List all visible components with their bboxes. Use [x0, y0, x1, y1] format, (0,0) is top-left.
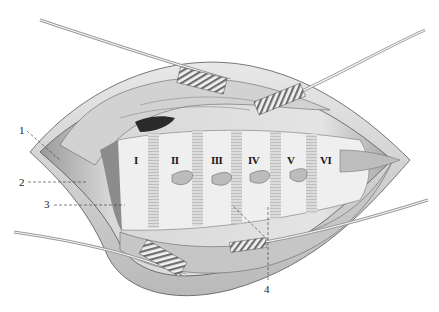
segment-label-ii: II: [171, 155, 179, 166]
segment-label-vi: VI: [320, 155, 331, 166]
callout-3: 3: [44, 199, 50, 210]
callout-4: 4: [264, 284, 270, 295]
ligament-band-3: [231, 130, 242, 224]
callout-2: 2: [19, 177, 25, 188]
ligament-band-4: [270, 132, 281, 220]
segment-label-iv: IV: [248, 155, 259, 166]
ligament-band-5: [306, 134, 317, 214]
segment-label-v: V: [287, 155, 294, 166]
callout-1: 1: [19, 125, 25, 136]
ligament-band-1: [148, 132, 159, 228]
segment-label-i: I: [134, 155, 138, 166]
segment-label-iii: III: [211, 155, 222, 166]
ligament-band-2: [192, 130, 203, 226]
